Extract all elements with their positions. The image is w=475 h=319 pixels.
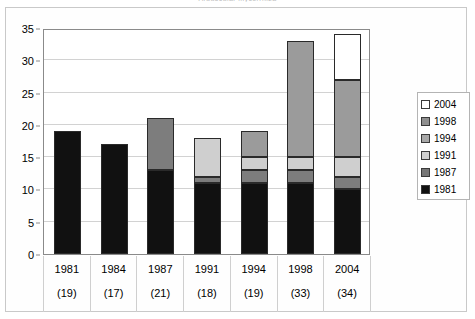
y-axis-tick-label: 25 bbox=[22, 88, 34, 99]
x-axis-count-label: (33) bbox=[278, 287, 324, 299]
bar-segment-1991[interactable] bbox=[287, 157, 314, 170]
bar-column[interactable] bbox=[278, 30, 325, 254]
x-axis-count-label: (21) bbox=[137, 287, 183, 299]
legend-item-1994[interactable]: 1994 bbox=[421, 130, 469, 147]
stacked-bar[interactable] bbox=[287, 30, 314, 254]
y-axis-tick-mark bbox=[36, 29, 40, 30]
y-axis-tick-label: 15 bbox=[22, 153, 34, 164]
bar-segment-1987[interactable] bbox=[334, 177, 361, 190]
x-axis-label-table: 1981(19)1984(17)1987(21)1991(18)1994(19)… bbox=[43, 256, 370, 312]
bar-segment-1987[interactable] bbox=[194, 177, 221, 183]
stacked-bar[interactable] bbox=[101, 30, 128, 254]
x-axis-cell: 1987(21) bbox=[137, 256, 184, 312]
plot-area bbox=[43, 29, 370, 255]
y-axis-tick-mark bbox=[36, 222, 40, 223]
legend-label: 1994 bbox=[434, 134, 456, 144]
chart-legend: 200419981994199119871981 bbox=[417, 92, 470, 200]
x-axis-year-label: 1991 bbox=[184, 263, 230, 275]
x-axis-year-label: 1981 bbox=[44, 263, 90, 275]
bar-segment-1994[interactable] bbox=[241, 131, 268, 157]
y-axis-tick-label: 10 bbox=[22, 185, 34, 196]
legend-swatch-icon bbox=[421, 151, 430, 160]
bar-column[interactable] bbox=[44, 30, 91, 254]
x-axis-cell: 1981(19) bbox=[44, 256, 91, 312]
bar-column[interactable] bbox=[184, 30, 231, 254]
bar-column[interactable] bbox=[91, 30, 138, 254]
x-axis-year-label: 1984 bbox=[91, 263, 137, 275]
legend-item-1987[interactable]: 1987 bbox=[421, 164, 469, 181]
bar-segment-2004[interactable] bbox=[334, 34, 361, 79]
legend-swatch-icon bbox=[421, 185, 430, 194]
legend-label: 1987 bbox=[434, 168, 456, 178]
bar-segment-1981[interactable] bbox=[194, 183, 221, 254]
bar-series-container bbox=[44, 30, 369, 254]
y-axis-tick-mark bbox=[36, 125, 40, 126]
bar-segment-1981[interactable] bbox=[147, 170, 174, 254]
bar-column[interactable] bbox=[231, 30, 278, 254]
legend-label: 1981 bbox=[434, 185, 456, 195]
x-axis-count-label: (17) bbox=[91, 287, 137, 299]
y-axis: 05101520253035 bbox=[0, 29, 40, 255]
x-axis-cell: 1998(33) bbox=[278, 256, 325, 312]
y-axis-tick-label: 35 bbox=[22, 24, 34, 35]
x-axis-count-label: (18) bbox=[184, 287, 230, 299]
stacked-bar[interactable] bbox=[241, 30, 268, 254]
bar-segment-1991[interactable] bbox=[334, 157, 361, 176]
x-axis-count-label: (34) bbox=[324, 287, 370, 299]
bar-segment-1987[interactable] bbox=[147, 118, 174, 170]
bar-column[interactable] bbox=[324, 30, 371, 254]
bar-segment-1981[interactable] bbox=[101, 144, 128, 254]
x-axis-count-label: (19) bbox=[44, 287, 90, 299]
legend-swatch-icon bbox=[421, 100, 430, 109]
chart-screenshot: Arbuscular mycorrhiza 05101520253035 198… bbox=[0, 0, 475, 319]
bar-segment-1981[interactable] bbox=[54, 131, 81, 254]
legend-item-2004[interactable]: 2004 bbox=[421, 96, 469, 113]
bar-segment-1991[interactable] bbox=[194, 138, 221, 177]
chart-title: Arbuscular mycorrhiza bbox=[0, 0, 475, 2]
x-axis-cell: 1994(19) bbox=[231, 256, 278, 312]
y-axis-tick-label: 30 bbox=[22, 56, 34, 67]
bar-segment-1987[interactable] bbox=[241, 170, 268, 183]
legend-label: 1998 bbox=[434, 117, 456, 127]
x-axis-count-label: (19) bbox=[231, 287, 277, 299]
x-axis-year-label: 1998 bbox=[278, 263, 324, 275]
legend-item-1991[interactable]: 1991 bbox=[421, 147, 469, 164]
x-axis-cell: 2004(34) bbox=[324, 256, 371, 312]
stacked-bar[interactable] bbox=[334, 30, 361, 254]
bar-segment-1994[interactable] bbox=[334, 80, 361, 157]
bar-segment-1981[interactable] bbox=[241, 183, 268, 254]
x-axis-year-label: 1987 bbox=[137, 263, 183, 275]
y-axis-tick-label: 5 bbox=[28, 217, 34, 228]
y-axis-tick-mark bbox=[36, 255, 40, 256]
bar-segment-1981[interactable] bbox=[287, 183, 314, 254]
x-axis-cell: 1991(18) bbox=[184, 256, 231, 312]
x-axis-year-label: 2004 bbox=[324, 263, 370, 275]
y-axis-tick-label: 20 bbox=[22, 120, 34, 131]
legend-item-1998[interactable]: 1998 bbox=[421, 113, 469, 130]
bar-segment-1998[interactable] bbox=[287, 41, 314, 157]
y-axis-tick-mark bbox=[36, 61, 40, 62]
y-axis-tick-mark bbox=[36, 158, 40, 159]
bar-segment-1991[interactable] bbox=[241, 157, 268, 170]
stacked-bar[interactable] bbox=[54, 30, 81, 254]
stacked-bar[interactable] bbox=[194, 30, 221, 254]
y-axis-tick-mark bbox=[36, 190, 40, 191]
bar-column[interactable] bbox=[137, 30, 184, 254]
legend-swatch-icon bbox=[421, 168, 430, 177]
x-axis-year-label: 1994 bbox=[231, 263, 277, 275]
legend-label: 2004 bbox=[434, 100, 456, 110]
legend-label: 1991 bbox=[434, 151, 456, 161]
bar-segment-1981[interactable] bbox=[334, 189, 361, 254]
x-axis-cell: 1984(17) bbox=[91, 256, 138, 312]
bar-segment-1987[interactable] bbox=[287, 170, 314, 183]
stacked-bar[interactable] bbox=[147, 30, 174, 254]
y-axis-tick-label: 0 bbox=[28, 250, 34, 261]
legend-item-1981[interactable]: 1981 bbox=[421, 181, 469, 198]
legend-swatch-icon bbox=[421, 134, 430, 143]
y-axis-tick-mark bbox=[36, 93, 40, 94]
legend-swatch-icon bbox=[421, 117, 430, 126]
